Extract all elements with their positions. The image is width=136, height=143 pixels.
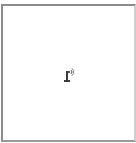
header-cutoff-text: — — — — — — — — — [0, 0, 136, 3]
antenna-broadcast-icon — [64, 68, 76, 82]
content-panel — [1, 4, 136, 142]
